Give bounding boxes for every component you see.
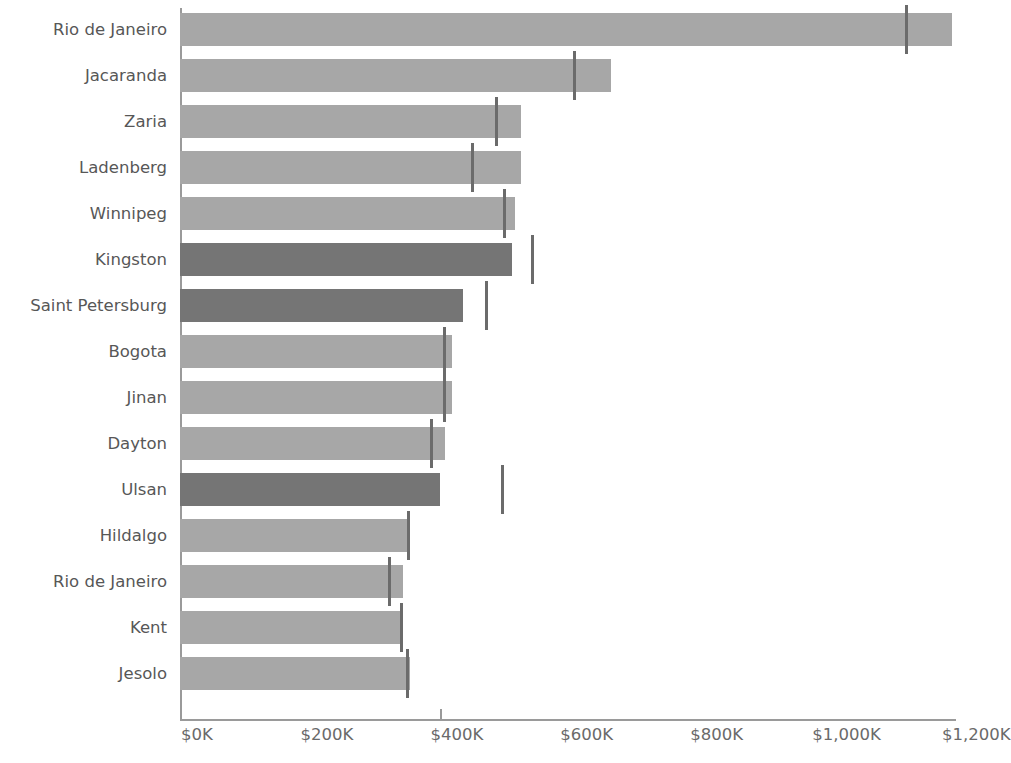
reference-marker: [443, 373, 446, 422]
x-axis-tick-label: $1,200K: [942, 725, 1011, 744]
x-axis-tick-label: $200K: [300, 725, 353, 744]
chart-row: Rio de Janeiro: [180, 560, 994, 606]
category-label: Winnipeg: [90, 192, 180, 235]
bar[interactable]: [180, 197, 515, 230]
chart-row: Hildalgo: [180, 514, 994, 560]
reference-marker: [471, 143, 474, 192]
bar[interactable]: [180, 519, 408, 552]
chart-row: Kent: [180, 606, 994, 652]
bar[interactable]: [180, 13, 952, 46]
reference-marker: [406, 649, 409, 698]
bar[interactable]: [180, 335, 452, 368]
category-label: Dayton: [107, 422, 180, 465]
category-label: Ulsan: [121, 468, 180, 511]
x-axis-tick-label: $1,000K: [812, 725, 881, 744]
bar[interactable]: [180, 151, 521, 184]
reference-marker: [905, 5, 908, 54]
x-axis-tick-label: $800K: [690, 725, 743, 744]
chart-row: Jesolo: [180, 652, 994, 698]
reference-marker: [501, 465, 504, 514]
chart-row: Bogota: [180, 330, 994, 376]
chart-row: Saint Petersburg: [180, 284, 994, 330]
reference-marker: [573, 51, 576, 100]
reference-marker: [443, 327, 446, 376]
reference-marker: [531, 235, 534, 284]
chart-row: Ulsan: [180, 468, 994, 514]
reference-marker: [407, 511, 410, 560]
category-label: Ladenberg: [79, 146, 180, 189]
chart-row: Zaria: [180, 100, 994, 146]
category-label: Kent: [130, 606, 180, 649]
chart-row: Kingston: [180, 238, 994, 284]
reference-marker: [485, 281, 488, 330]
x-axis-line: [180, 719, 956, 721]
category-label: Zaria: [124, 100, 180, 143]
category-label: Jesolo: [119, 652, 180, 695]
category-label: Kingston: [95, 238, 180, 281]
chart-row: Jacaranda: [180, 54, 994, 100]
category-label: Hildalgo: [100, 514, 180, 557]
bar[interactable]: [180, 243, 512, 276]
bar[interactable]: [180, 427, 445, 460]
reference-marker: [430, 419, 433, 468]
bar[interactable]: [180, 611, 400, 644]
chart-row: Dayton: [180, 422, 994, 468]
category-label: Jinan: [127, 376, 180, 419]
category-label: Saint Petersburg: [30, 284, 180, 327]
bar[interactable]: [180, 657, 410, 690]
x-axis-tick-label: $0K: [181, 725, 213, 744]
bar[interactable]: [180, 59, 611, 92]
reference-marker: [388, 557, 391, 606]
bar[interactable]: [180, 381, 452, 414]
category-label: Rio de Janeiro: [53, 8, 180, 51]
category-label: Bogota: [108, 330, 180, 373]
category-label: Jacaranda: [85, 54, 180, 97]
x-axis-tick-label: $400K: [430, 725, 483, 744]
category-label: Rio de Janeiro: [53, 560, 180, 603]
chart-row: Rio de Janeiro: [180, 8, 994, 54]
reference-marker: [400, 603, 403, 652]
chart-row: Winnipeg: [180, 192, 994, 238]
chart-row: Ladenberg: [180, 146, 994, 192]
bar[interactable]: [180, 565, 403, 598]
bar[interactable]: [180, 473, 440, 506]
reference-marker: [503, 189, 506, 238]
x-axis-tick-label: $600K: [560, 725, 613, 744]
chart-row: Jinan: [180, 376, 994, 422]
reference-marker: [495, 97, 498, 146]
bar[interactable]: [180, 289, 463, 322]
bar[interactable]: [180, 105, 521, 138]
plot-area: Rio de JaneiroJacarandaZariaLadenbergWin…: [180, 8, 994, 712]
